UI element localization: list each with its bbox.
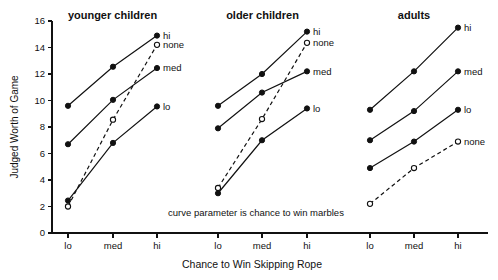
data-point-hi bbox=[65, 103, 70, 108]
data-point-hi bbox=[154, 33, 159, 38]
data-point-med bbox=[455, 69, 460, 74]
data-point-hi bbox=[455, 25, 460, 30]
data-point-lo bbox=[304, 106, 309, 111]
data-point-none bbox=[411, 165, 416, 170]
series-label-lo: lo bbox=[163, 101, 170, 112]
data-point-hi bbox=[367, 107, 372, 112]
data-point-none bbox=[455, 139, 460, 144]
panel-0: younger childrenhinonemedlo bbox=[65, 9, 184, 209]
data-point-lo bbox=[154, 104, 159, 109]
data-point-none bbox=[154, 42, 159, 47]
series-line-med bbox=[370, 71, 458, 140]
x-axis-tick-label: med bbox=[104, 240, 122, 251]
data-point-hi bbox=[215, 103, 220, 108]
panel-1: older childrenhinonemedlo bbox=[215, 9, 334, 196]
data-point-lo bbox=[455, 107, 460, 112]
series-label-hi: hi bbox=[313, 26, 320, 37]
series-line-hi bbox=[68, 36, 157, 106]
y-axis-tick-label: 10 bbox=[34, 95, 45, 106]
line-chart-svg: 0246810121416 lomedhilomedhilomedhi youn… bbox=[0, 0, 498, 280]
series-label-none: none bbox=[163, 39, 184, 50]
panel-title: adults bbox=[398, 9, 430, 21]
data-point-hi bbox=[411, 69, 416, 74]
y-axis-tick-label: 2 bbox=[40, 201, 45, 212]
x-axis-title: Chance to Win Skipping Rope bbox=[182, 258, 322, 270]
data-point-none bbox=[304, 40, 309, 45]
y-axis-tick-label: 8 bbox=[40, 121, 45, 132]
data-point-lo bbox=[259, 138, 264, 143]
x-axis-tick-label: hi bbox=[153, 240, 160, 251]
panel-title: younger children bbox=[68, 9, 158, 21]
panels-container: younger childrenhinonemedloolder childre… bbox=[65, 9, 485, 209]
data-point-hi bbox=[304, 29, 309, 34]
data-point-none bbox=[65, 204, 70, 209]
x-axis: lomedhilomedhilomedhi bbox=[52, 233, 488, 251]
x-axis-tick-label: med bbox=[253, 240, 271, 251]
data-point-med bbox=[65, 142, 70, 147]
data-point-lo bbox=[110, 140, 115, 145]
data-point-med bbox=[367, 138, 372, 143]
x-axis-tick-label: hi bbox=[454, 240, 461, 251]
data-point-med bbox=[411, 109, 416, 114]
y-axis-tick-label: 0 bbox=[40, 227, 45, 238]
x-axis-tick-label: hi bbox=[303, 240, 310, 251]
data-point-none bbox=[259, 116, 264, 121]
y-axis: 0246810121416 bbox=[34, 15, 52, 238]
series-label-none: none bbox=[464, 136, 485, 147]
series-line-none bbox=[370, 142, 458, 204]
data-point-hi bbox=[259, 71, 264, 76]
data-point-none bbox=[215, 185, 220, 190]
data-point-lo bbox=[411, 139, 416, 144]
x-axis-tick-label: lo bbox=[64, 240, 71, 251]
y-axis-tick-label: 16 bbox=[34, 15, 45, 26]
panel-title: older children bbox=[226, 9, 299, 21]
series-label-med: med bbox=[163, 62, 181, 73]
x-axis-tick-label: med bbox=[405, 240, 423, 251]
data-point-lo bbox=[65, 198, 70, 203]
chart-figure: 0246810121416 lomedhilomedhilomedhi youn… bbox=[0, 0, 498, 280]
x-axis-tick-label: lo bbox=[366, 240, 373, 251]
y-axis-title: Judged Worth of Game bbox=[9, 75, 20, 179]
data-point-lo bbox=[215, 191, 220, 196]
series-line-none bbox=[218, 43, 307, 188]
series-label-med: med bbox=[313, 66, 331, 77]
y-axis-tick-label: 4 bbox=[40, 174, 45, 185]
data-point-med bbox=[215, 126, 220, 131]
series-label-hi: hi bbox=[464, 22, 471, 33]
data-point-med bbox=[154, 65, 159, 70]
data-point-none bbox=[367, 201, 372, 206]
y-axis-tick-label: 12 bbox=[34, 68, 45, 79]
data-point-hi bbox=[110, 64, 115, 69]
data-point-none bbox=[110, 117, 115, 122]
data-point-med bbox=[259, 90, 264, 95]
series-line-med bbox=[68, 68, 157, 144]
curve-parameter-note: curve parameter is chance to win marbles bbox=[168, 207, 344, 218]
series-label-lo: lo bbox=[313, 103, 320, 114]
x-axis-tick-label: lo bbox=[214, 240, 221, 251]
data-point-lo bbox=[367, 165, 372, 170]
data-point-med bbox=[304, 69, 309, 74]
series-label-med: med bbox=[464, 66, 482, 77]
y-axis-tick-label: 6 bbox=[40, 148, 45, 159]
series-label-lo: lo bbox=[464, 104, 471, 115]
series-label-none: none bbox=[313, 37, 334, 48]
chart-labels: Chance to Win Skipping RopeJudged Worth … bbox=[9, 75, 344, 270]
y-axis-tick-label: 14 bbox=[34, 42, 45, 53]
panel-2: adultshimedlonone bbox=[367, 9, 485, 206]
data-point-med bbox=[110, 97, 115, 102]
